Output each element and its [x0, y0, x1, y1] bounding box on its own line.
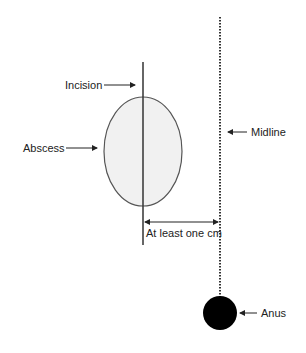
abscess-incision-diagram: Incision Abscess Midline At least one cm…	[0, 0, 306, 353]
incision-label: Incision	[65, 79, 102, 91]
anus-label: Anus	[261, 307, 287, 319]
distance-label: At least one cm	[146, 227, 222, 239]
midline-label: Midline	[251, 126, 286, 138]
anus-shape	[203, 296, 237, 330]
abscess-label: Abscess	[23, 142, 65, 154]
